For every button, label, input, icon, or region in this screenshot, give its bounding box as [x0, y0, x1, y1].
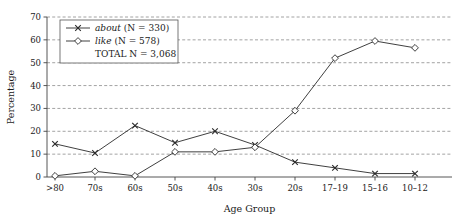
data-point-marker [372, 38, 379, 45]
data-point-marker [172, 140, 178, 146]
legend-series-name: like [95, 36, 112, 46]
x-tick-label: 20s [287, 183, 302, 193]
x-tick-label: 40s [207, 183, 222, 193]
x-axis-ticks: >8070s60s50s40s30s20s17–1915–1610–12 [46, 177, 428, 193]
legend-total-label: TOTAL N = 3,068 [95, 49, 176, 59]
data-point-marker [332, 55, 339, 62]
y-tick-label: 50 [30, 58, 41, 68]
y-tick-label: 10 [30, 149, 41, 159]
y-axis-title: Percentage [5, 69, 16, 124]
legend-series-count: (N = 330) [121, 23, 169, 33]
y-tick-label: 40 [30, 81, 41, 91]
x-tick-label: 30s [247, 183, 262, 193]
data-point-marker [412, 44, 419, 51]
x-tick-label: 15–16 [362, 183, 388, 193]
x-tick-label: 50s [167, 183, 182, 193]
y-tick-label: 30 [30, 103, 41, 113]
data-point-marker [132, 172, 139, 179]
x-tick-label: 17–19 [322, 183, 348, 193]
legend-label-1: about (N = 330) [95, 23, 169, 33]
legend: about (N = 330)like (N = 578)TOTAL N = 3… [60, 20, 178, 63]
y-tick-label: 0 [36, 172, 41, 182]
data-point-marker [92, 168, 99, 175]
x-tick-label: 10–12 [402, 183, 428, 193]
data-point-marker [52, 172, 59, 179]
legend-series-name: about [95, 23, 121, 33]
chart-container: 010203040506070>8070s60s50s40s30s20s17–1… [0, 0, 460, 221]
x-tick-label: 60s [127, 183, 142, 193]
x-tick-label: 70s [87, 183, 102, 193]
y-tick-label: 20 [30, 126, 41, 136]
line-chart: 010203040506070>8070s60s50s40s30s20s17–1… [0, 0, 460, 221]
data-point-marker [212, 128, 218, 134]
y-tick-label: 60 [30, 35, 41, 45]
data-point-marker [132, 123, 138, 129]
y-tick-label: 70 [30, 12, 41, 22]
data-point-marker [212, 148, 219, 155]
x-axis-title: Age Group [223, 203, 276, 214]
legend-series-count: (N = 578) [112, 36, 160, 46]
x-tick-label: >80 [46, 183, 64, 193]
legend-label-2: like (N = 578) [95, 36, 160, 46]
y-axis-ticks: 010203040506070 [30, 12, 47, 182]
